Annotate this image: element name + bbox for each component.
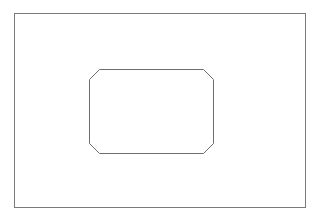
diagram-canvas [0,0,318,214]
outer-frame [15,14,306,208]
inner-chamfered-rectangle [90,70,214,154]
